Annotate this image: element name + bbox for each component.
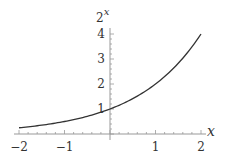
y-axis: 1234 2x bbox=[96, 6, 114, 140]
y-tick-label: 2 bbox=[97, 77, 105, 91]
x-tick-label: 2 bbox=[197, 140, 205, 154]
x-axis-label: x bbox=[207, 123, 215, 139]
y-tick-label: 3 bbox=[97, 52, 105, 66]
y-tick-label: 1 bbox=[97, 102, 105, 116]
y-tick-label: 4 bbox=[97, 27, 105, 41]
x-tick-label: 1 bbox=[152, 140, 160, 154]
x-tick-label: −2 bbox=[10, 140, 28, 154]
exponential-plot: −2−112 x 1234 2x bbox=[0, 0, 230, 161]
y-axis-label: 2x bbox=[96, 6, 110, 25]
x-tick-label: −1 bbox=[56, 140, 74, 154]
x-axis: −2−112 x bbox=[10, 123, 215, 154]
